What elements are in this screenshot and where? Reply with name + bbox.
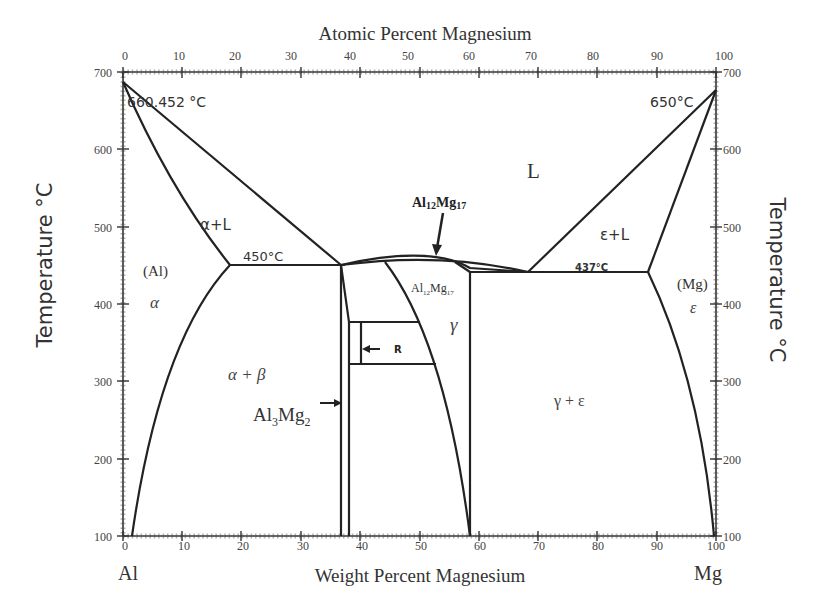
svg-text:400: 400: [723, 298, 741, 312]
major-ticks: [117, 67, 722, 541]
svg-text:90: 90: [651, 49, 663, 63]
left-axis-title: Temperature °C: [33, 183, 57, 349]
arrows: [320, 213, 443, 407]
svg-text:200: 200: [94, 453, 112, 467]
svg-text:600: 600: [94, 143, 112, 157]
svg-text:40: 40: [356, 539, 368, 553]
eutectic-450-label: 450°C: [243, 249, 283, 264]
region-epsilon: ε: [690, 299, 697, 316]
svg-text:300: 300: [723, 375, 741, 389]
r-phase-label: R: [394, 344, 402, 355]
svg-text:20: 20: [229, 49, 241, 63]
phase-diagram: Atomic Percent Magnesium Weight Percent …: [0, 0, 817, 616]
svg-text:300: 300: [94, 375, 112, 389]
svg-text:60: 60: [474, 539, 486, 553]
svg-text:10: 10: [178, 539, 190, 553]
svg-text:200: 200: [723, 453, 741, 467]
al-melting-label: 660.452 °C: [127, 94, 206, 110]
eutectic-437-label: 437°C: [575, 262, 608, 273]
mg-melting-label: 650°C: [650, 94, 694, 110]
region-al-solid: (Al): [143, 263, 168, 280]
svg-text:50: 50: [415, 539, 427, 553]
al12mg17-arrow: [437, 213, 443, 248]
svg-text:100: 100: [715, 49, 733, 63]
svg-text:700: 700: [94, 66, 112, 80]
svg-text:500: 500: [723, 221, 741, 235]
svg-text:400: 400: [94, 298, 112, 312]
svg-text:60: 60: [463, 49, 475, 63]
svg-text:100: 100: [94, 530, 112, 544]
svg-text:100: 100: [723, 530, 741, 544]
region-alpha-liquid: α+L: [200, 216, 231, 234]
al3mg2-label: Al3Mg2: [253, 404, 310, 429]
al12mg17-arrow-label: Al12Mg17: [412, 195, 466, 211]
region-gamma-epsilon: γ + ε: [553, 392, 585, 410]
svg-text:40: 40: [344, 49, 356, 63]
svg-text:10: 10: [173, 49, 185, 63]
region-mg-solid: (Mg): [677, 276, 708, 293]
svg-text:30: 30: [285, 49, 297, 63]
svg-text:70: 70: [525, 49, 537, 63]
top-axis-title: Atomic Percent Magnesium: [318, 23, 531, 44]
svg-text:0: 0: [122, 539, 128, 553]
svg-text:30: 30: [297, 539, 309, 553]
svg-text:0: 0: [122, 49, 128, 63]
region-epsilon-liquid: ε+L: [600, 226, 630, 244]
svg-text:700: 700: [723, 66, 741, 80]
axes-frame: [123, 72, 716, 536]
svg-text:70: 70: [533, 539, 545, 553]
al12mg17-region-label: Al12Mg17: [411, 281, 454, 297]
right-tick-labels: 700 600 500 400 300 200 100: [723, 66, 741, 544]
right-axis-title: Temperature °C: [765, 197, 789, 363]
svg-text:50: 50: [402, 49, 414, 63]
svg-text:500: 500: [94, 221, 112, 235]
top-tick-labels: 0 10 20 30 40 50 60 70 80 90 100: [122, 49, 733, 63]
svg-text:600: 600: [723, 143, 741, 157]
svg-text:90: 90: [651, 539, 663, 553]
minor-ticks: [123, 72, 716, 536]
region-gamma: γ: [450, 314, 458, 335]
bottom-tick-labels: 0 10 20 30 40 50 60 70 80 90 100: [122, 539, 725, 553]
svg-text:20: 20: [237, 539, 249, 553]
bottom-axis-title: Weight Percent Magnesium: [315, 565, 526, 586]
left-tick-labels: 700 600 500 400 300 200 100: [94, 66, 112, 544]
svg-text:80: 80: [592, 539, 604, 553]
region-alpha: α: [150, 293, 160, 312]
al-end-label: Al: [118, 562, 138, 584]
mg-end-label: Mg: [694, 562, 722, 585]
region-liquid: L: [527, 159, 540, 183]
region-alpha-beta: α + β: [228, 365, 266, 384]
svg-text:80: 80: [587, 49, 599, 63]
phase-boundaries: [123, 82, 716, 536]
